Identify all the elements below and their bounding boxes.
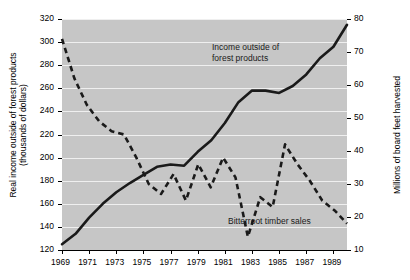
x-tick-label: 1985: [268, 257, 287, 267]
x-tick-label: 1971: [78, 257, 97, 267]
x-tick-label: 1979: [187, 257, 206, 267]
right-tick-label: 50: [354, 112, 363, 122]
left-tick-label: 260: [28, 82, 54, 92]
annotation-timber-series: Bitterroot timber sales: [228, 216, 311, 227]
left-tick-label: 200: [28, 152, 54, 162]
right-tick-label: 60: [354, 79, 363, 89]
left-tick-label: 180: [28, 175, 54, 185]
x-tick-label: 1969: [51, 257, 70, 267]
left-tick-label: 320: [28, 13, 54, 23]
left-tick-label: 120: [28, 244, 54, 254]
right-tick-label: 40: [354, 145, 363, 155]
right-tick-label: 80: [354, 13, 363, 23]
x-tick-label: 1981: [214, 257, 233, 267]
right-tick-label: 20: [354, 211, 363, 221]
x-tick-label: 1973: [105, 257, 124, 267]
right-axis-title: Millions of board feet harvested: [392, 60, 402, 210]
x-tick-label: 1987: [295, 257, 314, 267]
left-tick-label: 280: [28, 59, 54, 69]
left-axis-title: Real income outside of forest products (…: [8, 30, 28, 220]
left-tick-label: 140: [28, 221, 54, 231]
x-tick-label: 1977: [160, 257, 179, 267]
x-tick-label: 1983: [241, 257, 260, 267]
left-tick-label: 240: [28, 105, 54, 115]
right-axis-ticks: [347, 20, 351, 251]
x-tick-label: 1989: [322, 257, 341, 267]
right-tick-label: 30: [354, 178, 363, 188]
chart-plot-svg: [0, 0, 410, 280]
right-tick-label: 70: [354, 46, 363, 56]
left-tick-label: 160: [28, 198, 54, 208]
annotation-income-series: Income outside of forest products: [212, 42, 279, 63]
chart-container: Real income outside of forest products (…: [0, 0, 410, 280]
left-axis-ticks: [58, 20, 62, 251]
left-tick-label: 300: [28, 36, 54, 46]
x-tick-label: 1975: [132, 257, 151, 267]
right-tick-label: 10: [354, 244, 363, 254]
left-tick-label: 220: [28, 129, 54, 139]
